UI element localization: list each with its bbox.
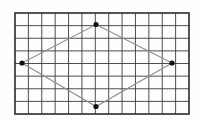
vertex-dot-top <box>93 22 98 27</box>
vertex-dot-bottom <box>93 104 98 109</box>
geometry-figure <box>0 0 201 122</box>
vertex-dot-right <box>169 60 174 65</box>
vertex-dot-left <box>19 60 24 65</box>
geometry-figure-container <box>0 0 201 122</box>
